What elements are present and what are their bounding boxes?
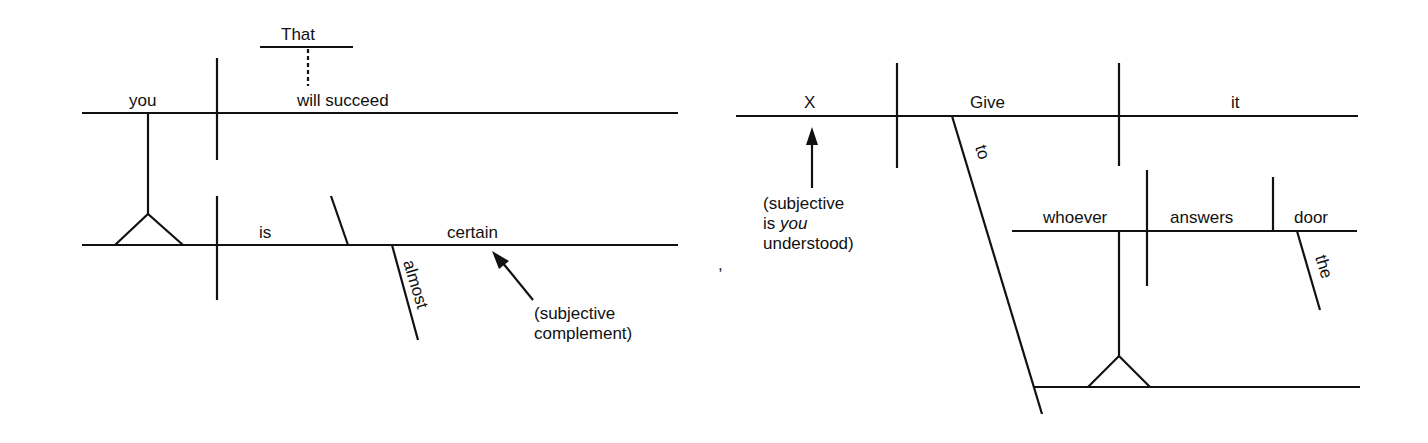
sentence-diagrams: That you will succeed is certain almost … [0,0,1428,443]
word-answers: answers [1170,208,1233,227]
annotation-understood: understood) [763,234,854,253]
arrow-head-icon [806,127,818,145]
word-give: Give [970,93,1005,112]
left-diagram: That you will succeed is certain almost … [82,25,678,343]
word-whoever: whoever [1042,208,1108,227]
word-will-succeed: will succeed [296,91,389,110]
word-the: the [1311,253,1336,281]
word-that: That [281,25,315,44]
word-to: to [971,143,993,162]
annotation-is-you: is you [763,214,808,233]
word-almost: almost [399,258,432,312]
pedestal-triangle [115,214,183,245]
annotation-arrow-shaft [502,262,533,300]
stray-mark: , [718,255,723,274]
annotation-subjective: (subjective [534,304,615,323]
word-door: door [1294,208,1328,227]
annotation-complement: complement) [534,324,632,343]
to-preposition-line [952,116,1042,414]
word-you: you [129,91,156,110]
word-certain: certain [447,223,498,242]
word-it: it [1231,93,1240,112]
right-diagram: X Give it (subjective is you understood)… [736,63,1360,414]
annotation-subjective: (subjective [763,194,844,213]
word-is: is [259,223,271,242]
word-x: X [804,93,815,112]
complement-slant-line [331,196,348,245]
pedestal-triangle [1088,356,1150,387]
